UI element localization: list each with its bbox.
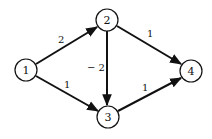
svg-text:4: 4	[188, 65, 195, 78]
graph-svg: 2 1 − 2 1 1 1 2 3 4	[0, 0, 212, 139]
edge-label-3-4: 1	[142, 82, 148, 93]
node-1: 1	[15, 59, 37, 81]
node-3: 3	[97, 106, 119, 128]
node-4: 4	[180, 60, 202, 82]
edge-label-2-3: − 2	[87, 62, 105, 73]
edge-label-1-2: 2	[58, 34, 64, 45]
edge-label-2-4: 1	[147, 28, 153, 39]
node-2: 2	[96, 9, 118, 31]
edge-1-2	[36, 27, 97, 64]
edge-3-4	[118, 78, 181, 111]
svg-text:3: 3	[105, 111, 112, 124]
edge-label-1-3: 1	[64, 79, 70, 90]
svg-text:1: 1	[23, 64, 30, 77]
svg-text:2: 2	[104, 14, 111, 27]
graph-diagram: 2 1 − 2 1 1 1 2 3 4	[0, 0, 212, 139]
